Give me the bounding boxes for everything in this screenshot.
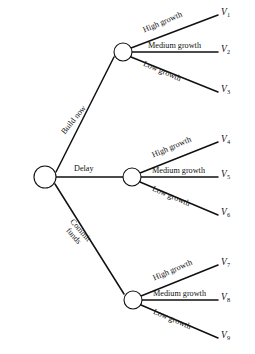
branch-label-v5: Medium growth (152, 167, 205, 175)
outcome-value-v7: V7 (221, 258, 230, 268)
outcome-value-v3-subscript: 3 (227, 88, 230, 95)
outcome-value-v4-subscript: 4 (227, 138, 230, 145)
outcome-value-v6: V6 (221, 208, 230, 218)
chance-node-delay[interactable] (123, 168, 141, 186)
outcome-value-v8: V8 (221, 293, 230, 303)
root-decision-node[interactable] (34, 166, 56, 188)
outcome-value-v6-subscript: 6 (227, 211, 230, 218)
chance-node-build-now[interactable] (114, 43, 132, 61)
decision-branch-lines (55, 57, 124, 294)
outcome-value-v5-subscript: 5 (227, 173, 230, 180)
outcome-value-v2: V2 (221, 45, 230, 55)
outcome-value-v2-subscript: 2 (227, 48, 230, 55)
outcome-value-v7-subscript: 7 (227, 261, 230, 268)
outcome-value-v5: V5 (221, 170, 230, 180)
outcome-value-v4: V4 (221, 135, 230, 145)
decision-branch-build-now[interactable] (56, 57, 114, 172)
outcome-value-v9: V9 (221, 331, 230, 341)
outcome-value-v8-subscript: 8 (227, 296, 230, 303)
node-shapes (34, 43, 142, 309)
tree-canvas (0, 0, 255, 354)
outcome-value-v1-subscript: 1 (227, 11, 230, 18)
outcome-value-v1: V1 (221, 8, 230, 18)
branch-label-v2: Medium growth (148, 42, 201, 50)
decision-label-delay: Delay (74, 165, 94, 173)
decision-tree-diagram: Build nowDelayCommitfundsHigh growthV1Me… (0, 0, 255, 354)
outcome-value-v9-subscript: 9 (227, 334, 230, 341)
outcome-value-v3: V3 (221, 85, 230, 95)
branch-label-v8: Medium growth (153, 290, 206, 298)
chance-node-commit-funds[interactable] (124, 291, 142, 309)
